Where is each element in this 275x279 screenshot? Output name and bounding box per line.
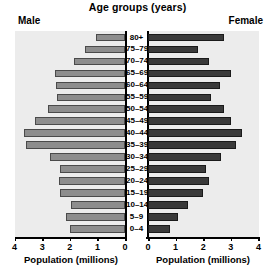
age-group-label: 80+ (126, 33, 147, 44)
pyramid-row: 25–29 (0, 164, 275, 175)
female-bar (148, 213, 178, 221)
chart-title: Age groups (years) (0, 1, 275, 13)
age-group-label: 55–59 (126, 92, 147, 103)
female-bar (148, 34, 224, 42)
male-axis-tick (125, 237, 127, 241)
female-bar (148, 189, 203, 197)
male-bar (96, 34, 125, 42)
male-bar (55, 70, 125, 78)
male-bar (59, 177, 125, 185)
female-bar (148, 105, 224, 113)
age-group-label: 15–19 (126, 188, 147, 199)
pyramid-row: 5–9 (0, 212, 275, 223)
male-bar (56, 82, 125, 90)
male-axis-tick (15, 237, 17, 241)
female-axis-tick (258, 237, 260, 241)
female-bar (148, 201, 188, 209)
female-bar (148, 153, 221, 161)
pyramid-row: 35–39 (0, 140, 275, 151)
male-axis-tick-label: 1 (87, 242, 107, 252)
male-bar (70, 225, 125, 233)
male-bar (35, 117, 125, 125)
female-bar (148, 177, 209, 185)
male-axis-tick (70, 237, 72, 241)
female-bar (148, 165, 206, 173)
age-group-label: 25–29 (126, 164, 147, 175)
female-bar (148, 129, 242, 137)
pyramid-row: 65–69 (0, 68, 275, 79)
female-axis-tick (231, 237, 233, 241)
pyramid-row: 45–49 (0, 116, 275, 127)
female-axis-tick (148, 237, 150, 241)
male-axis-tick-label: 2 (60, 242, 80, 252)
male-bar (60, 189, 125, 197)
male-bar (57, 94, 125, 102)
female-side-label: Female (229, 15, 263, 26)
female-bar (148, 82, 220, 90)
male-axis-tick-label: 4 (5, 242, 25, 252)
female-bar (148, 225, 170, 233)
male-bar (74, 58, 125, 66)
age-group-label: 60–64 (126, 80, 147, 91)
age-group-label: 50–54 (126, 104, 147, 115)
pyramid-row: 10–14 (0, 200, 275, 211)
pyramid-row: 80+ (0, 33, 275, 44)
age-group-label: 70–74 (126, 56, 147, 67)
age-group-label: 10–14 (126, 200, 147, 211)
female-axis-tick (203, 237, 205, 241)
pyramid-row: 70–74 (0, 56, 275, 67)
age-group-label: 30–34 (126, 152, 147, 163)
female-bar (148, 117, 231, 125)
age-group-label: 75–79 (126, 44, 147, 55)
age-group-label: 65–69 (126, 68, 147, 79)
male-bar (60, 165, 125, 173)
male-bar (50, 153, 125, 161)
age-group-label: 5–9 (126, 212, 147, 223)
pyramid-row: 75–79 (0, 44, 275, 55)
male-bar (26, 141, 125, 149)
female-axis-tick (176, 237, 178, 241)
female-bar (148, 58, 209, 66)
pyramid-row: 55–59 (0, 92, 275, 103)
age-group-label: 20–24 (126, 176, 147, 187)
female-bar (148, 70, 231, 78)
male-axis-title: Population (millions) (0, 254, 146, 265)
female-bar (148, 94, 211, 102)
male-bar (71, 201, 125, 209)
pyramid-row: 50–54 (0, 104, 275, 115)
age-group-label: 35–39 (126, 140, 147, 151)
pyramid-row: 15–19 (0, 188, 275, 199)
male-bar (66, 213, 125, 221)
male-axis-tick (97, 237, 99, 241)
female-bar (148, 46, 198, 54)
female-axis-title: Population (millions) (128, 254, 275, 265)
female-axis-tick-label: 4 (248, 242, 268, 252)
female-axis-tick-label: 1 (166, 242, 186, 252)
age-group-label: 40–44 (126, 128, 147, 139)
female-axis-tick-label: 2 (193, 242, 213, 252)
pyramid-row: 20–24 (0, 176, 275, 187)
female-axis-tick-label: 0 (138, 242, 158, 252)
pyramid-row: 60–64 (0, 80, 275, 91)
male-axis-tick-label: 0 (115, 242, 135, 252)
female-axis-tick-label: 3 (221, 242, 241, 252)
male-side-label: Male (18, 15, 40, 26)
male-bar (48, 105, 125, 113)
male-axis-tick-label: 3 (32, 242, 52, 252)
male-axis-tick (42, 237, 44, 241)
age-group-label: 0–4 (126, 224, 147, 235)
pyramid-row: 40–44 (0, 128, 275, 139)
age-group-label: 45–49 (126, 116, 147, 127)
male-bar (85, 46, 125, 54)
female-bar (148, 141, 236, 149)
pyramid-row: 30–34 (0, 152, 275, 163)
population-pyramid-chart: Age groups (years) Male Female 432100123… (0, 0, 275, 279)
male-bar (24, 129, 125, 137)
pyramid-row: 0–4 (0, 224, 275, 235)
